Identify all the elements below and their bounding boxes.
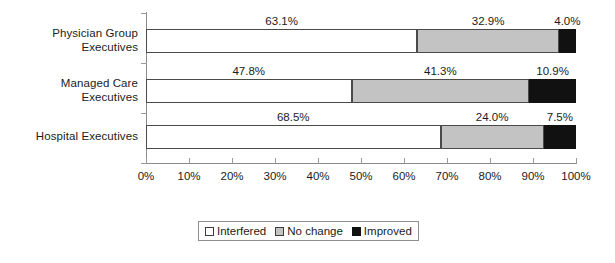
bar-value-label: 32.9% [463,14,513,28]
bar-value-label: 7.5% [535,110,585,124]
legend-item-improved: Improved [352,224,412,238]
legend-label-interfered: Interfered [217,224,266,238]
x-axis-tick-label: 40% [298,169,338,183]
x-axis-tick-label: 10% [169,169,209,183]
bar-segment-improved [559,29,576,53]
chart-legend: Interfered No change Improved [198,221,419,241]
bar-segment-interfered [146,29,417,53]
x-axis-tick [404,158,405,164]
legend-label-improved: Improved [364,224,412,238]
bar-segment-improved [544,125,576,149]
bar-value-label: 68.5% [268,110,318,124]
x-axis-tick [146,158,147,164]
y-axis-tick [141,13,147,14]
legend-swatch-interfered-icon [205,227,214,236]
category-label-managed-care-executives: Managed Care Executives [18,76,138,104]
bar-segment-interfered [146,125,441,149]
stacked-bar-chart: Physician Group Executives Managed Care … [0,0,615,263]
y-axis-tick [141,63,147,64]
bar-segment-interfered [146,79,352,103]
bar-value-label: 24.0% [467,110,517,124]
x-axis-tick-label: 30% [255,169,295,183]
category-label-hospital-executives: Hospital Executives [18,129,138,143]
bar-value-label: 41.3% [415,64,465,78]
x-axis-tick [361,158,362,164]
bar-row [146,29,576,53]
bar-row [146,79,576,103]
legend-item-no-change: No change [275,224,343,238]
x-axis-tick [189,158,190,164]
x-axis-tick [318,158,319,164]
category-label-physician-group-executives: Physician Group Executives [18,26,138,54]
x-axis-tick-label: 70% [427,169,467,183]
x-axis-tick [533,158,534,164]
bar-segment-nochange [441,125,544,149]
x-axis-tick [232,158,233,164]
x-axis-tick-label: 50% [341,169,381,183]
x-axis-tick-label: 80% [470,169,510,183]
x-axis-tick-label: 100% [556,169,596,183]
x-axis-tick-label: 0% [126,169,166,183]
x-axis-tick [447,158,448,164]
x-axis-tick [576,158,577,164]
x-axis-tick-label: 20% [212,169,252,183]
bar-value-label: 10.9% [528,64,578,78]
legend-label-no-change: No change [287,224,343,238]
y-axis-tick [141,113,147,114]
bar-segment-improved [529,79,576,103]
legend-item-interfered: Interfered [205,224,266,238]
x-axis-tick-label: 60% [384,169,424,183]
bar-value-label: 4.0% [542,14,592,28]
bar-value-label: 63.1% [257,14,307,28]
bar-segment-nochange [352,79,530,103]
x-axis-tick [490,158,491,164]
bar-segment-nochange [417,29,558,53]
legend-swatch-no-change-icon [275,227,284,236]
x-axis-tick [275,158,276,164]
bar-value-label: 47.8% [224,64,274,78]
x-axis-tick-label: 90% [513,169,553,183]
bar-row [146,125,576,149]
legend-swatch-improved-icon [352,227,361,236]
